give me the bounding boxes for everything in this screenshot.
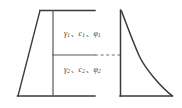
layer-2-separator-1: 、 — [70, 66, 78, 74]
inclined-back-face-line — [18, 11, 40, 97]
layer-1-phi-subscript: 1 — [98, 32, 101, 38]
figure-drawing-canvas — [0, 0, 182, 108]
soil-layer-1-parameters-label: γ1、c1、φ1 — [64, 30, 101, 39]
earth-pressure-curve — [122, 11, 173, 96]
left-cross-section-group — [18, 11, 96, 97]
layer-1-separator-1: 、 — [70, 30, 78, 38]
soil-layer-2-parameters-label: γ2、c2、φ2 — [64, 66, 101, 75]
layer-2-phi-subscript: 2 — [98, 68, 101, 74]
soil-pressure-figure: γ1、c1、φ1 γ2、c2、φ2 — [0, 0, 182, 108]
right-pressure-diagram-group — [120, 10, 173, 96]
